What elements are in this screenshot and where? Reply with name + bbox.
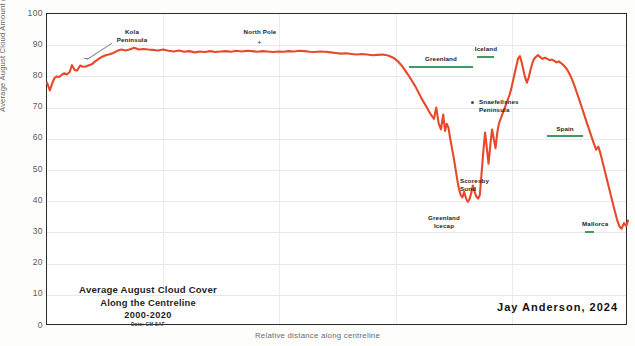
annotation-iceland: Iceland xyxy=(464,45,508,53)
page-title: Average August Cloud Cover xyxy=(53,284,243,297)
leader-arrow-kola xyxy=(84,58,89,59)
annotation-kola-peninsula: Kola Peninsula xyxy=(105,28,159,44)
y-tick-label-0: 0 xyxy=(7,321,43,330)
x-axis-label: Relative distance along centreline xyxy=(0,331,635,340)
dot-marker-snaefellsnes xyxy=(471,101,474,104)
annotation-scoresby-sund: Scoresby Sund xyxy=(460,177,510,193)
region-tick-mallorca xyxy=(585,231,594,233)
cloud-cover-line-series xyxy=(47,14,628,326)
chart-title-block: Average August Cloud Cover Along the Cen… xyxy=(53,284,243,327)
y-tick-label-80: 80 xyxy=(7,71,43,80)
y-tick-label-70: 70 xyxy=(7,102,43,111)
y-tick-label-50: 50 xyxy=(7,165,43,174)
series-path-cloud-cover xyxy=(47,48,628,229)
annotation-mallorca: Mallorca xyxy=(582,220,624,228)
region-bar-greenland xyxy=(409,66,473,68)
annotation-north-pole: North Pole xyxy=(230,28,290,36)
author-credit: Jay Anderson, 2024 xyxy=(497,301,618,313)
y-tick-label-10: 10 xyxy=(7,289,43,298)
chart-figure: Average August Cloud Amount (%) 10090807… xyxy=(0,0,635,346)
y-tick-label-90: 90 xyxy=(7,40,43,49)
y-axis-label: Average August Cloud Amount (%) xyxy=(0,0,7,112)
chart-period: 2000-2020 xyxy=(53,309,243,321)
y-tick-label-100: 100 xyxy=(7,9,43,18)
region-bar-iceland xyxy=(477,56,494,58)
annotation-greenland: Greenland xyxy=(412,55,470,63)
chart-subtitle: Along the Centreline xyxy=(53,297,243,309)
annotation-snaefellsnes-peninsula: Snaefellsnes Peninsula xyxy=(479,98,545,114)
plot-area: Kola Peninsula North Pole + Greenland Ic… xyxy=(46,13,627,325)
y-tick-label-20: 20 xyxy=(7,258,43,267)
plus-marker-north-pole: + xyxy=(257,39,262,47)
y-tick-label-40: 40 xyxy=(7,196,43,205)
region-bar-spain xyxy=(547,135,583,137)
y-tick-label-30: 30 xyxy=(7,227,43,236)
annotation-greenland-icecap: Greenland Icecap xyxy=(415,214,473,230)
data-source-label: Data: CM SAF xyxy=(53,322,243,327)
annotation-spain: Spain xyxy=(545,125,585,133)
y-tick-label-60: 60 xyxy=(7,133,43,142)
